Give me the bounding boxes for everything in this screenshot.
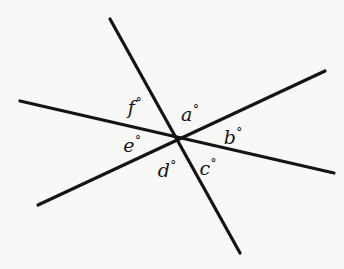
angle-letter-e: e (123, 134, 134, 156)
angle-label-d: d° (158, 160, 177, 180)
angle-letter-a: a (181, 103, 192, 125)
angle-label-f: f° (128, 97, 143, 117)
angle-label-c: c° (199, 158, 216, 178)
angle-letter-d: d (158, 159, 170, 181)
angle-letter-c: c (199, 157, 210, 179)
angle-label-b: b° (224, 127, 243, 147)
degree-symbol-f: ° (136, 96, 143, 110)
degree-symbol-c: ° (211, 157, 217, 171)
line-southwest-northeast (38, 71, 325, 205)
degree-symbol-e: ° (135, 134, 141, 148)
angle-label-a: a° (181, 104, 199, 124)
degree-symbol-d: ° (170, 159, 176, 173)
lines-group (0, 0, 344, 269)
degree-symbol-b: ° (236, 126, 242, 140)
angle-letter-f: f (128, 96, 136, 118)
angle-label-e: e° (123, 135, 141, 155)
geometry-diagram: a° b° c° d° e° f° (0, 0, 344, 269)
angle-letter-b: b (224, 126, 236, 148)
degree-symbol-a: ° (193, 103, 199, 117)
